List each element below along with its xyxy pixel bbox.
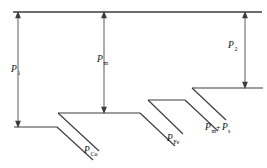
label-iron-loss-subscript: Fe — [174, 139, 180, 145]
label-copper-loss-subscript: Cu — [91, 151, 98, 157]
label-mech-stray-loss-base2: P — [221, 122, 228, 132]
label-input-power-subscript: 1 — [18, 70, 21, 76]
dimension-arrow-p2 — [242, 11, 248, 89]
label-output-power-subscript: 2 — [235, 46, 238, 52]
label-copper-loss-base: P — [83, 145, 90, 155]
label-mech-stray-loss-sub2: s — [228, 128, 231, 134]
loss-branch-copper-lower — [57, 127, 93, 160]
label-mech-stray-loss-operator: + — [216, 123, 221, 132]
power-flow-diagram: P 1 P m P 2 P Cu P Fe P m + P s — [0, 0, 267, 168]
label-output-power: P 2 — [227, 40, 238, 52]
label-iron-loss: P Fe — [166, 133, 180, 145]
loss-branch-mech-stray-lower — [185, 100, 218, 131]
loss-branch-copper-upper — [58, 113, 99, 151]
label-input-power: P 1 — [10, 64, 21, 76]
label-mechanical-power-subscript: m — [104, 60, 109, 66]
loss-branch-iron-upper — [148, 100, 183, 134]
label-mechanical-power: P m — [96, 54, 109, 66]
label-mech-stray-loss: P m + P s — [204, 122, 231, 134]
label-input-power-base: P — [10, 64, 17, 74]
label-mech-stray-loss-base1: P — [204, 122, 211, 132]
diagram-canvas: P 1 P m P 2 P Cu P Fe P m + P s — [0, 0, 267, 168]
label-copper-loss: P Cu — [83, 145, 98, 157]
label-iron-loss-base: P — [166, 133, 173, 143]
loss-branch-mech-stray-upper — [192, 88, 226, 120]
label-output-power-base: P — [227, 40, 234, 50]
label-mechanical-power-base: P — [96, 54, 103, 64]
